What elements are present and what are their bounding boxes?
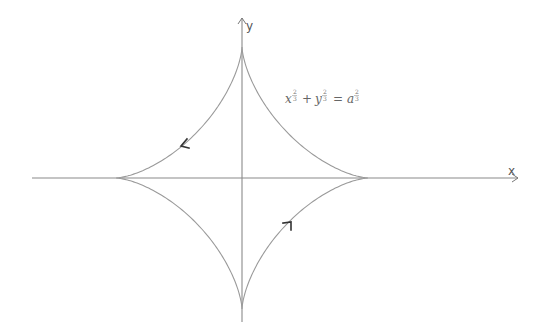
svg-text:3: 3 [293, 95, 297, 102]
svg-text:a: a [347, 92, 354, 106]
svg-text:2: 2 [355, 88, 359, 95]
x-axis-label: x [508, 164, 515, 178]
svg-text:+: + [302, 92, 312, 106]
svg-text:2: 2 [293, 88, 297, 95]
equation-label: x 2 3 + y 2 3 = a 2 3 [285, 88, 359, 106]
svg-text:3: 3 [355, 95, 359, 102]
svg-text:=: = [333, 92, 343, 106]
x-axis: x [32, 164, 518, 182]
svg-text:y: y [314, 92, 322, 106]
svg-text:2: 2 [323, 88, 327, 95]
astroid-diagram: x y x 2 3 + y 2 3 = a 2 3 [0, 0, 543, 331]
svg-text:3: 3 [323, 95, 327, 102]
svg-text:x: x [285, 92, 292, 106]
y-axis-label: y [246, 19, 253, 33]
